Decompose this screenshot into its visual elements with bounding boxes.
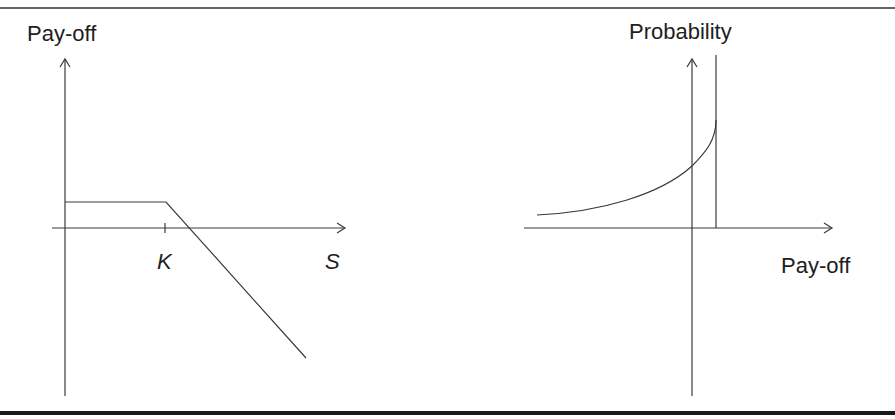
right-x-axis-label: Pay-off	[781, 255, 850, 277]
left-y-axis-label: Pay-off	[27, 23, 96, 45]
strike-label: K	[157, 251, 172, 273]
right-y-axis-label: Probability	[629, 21, 732, 43]
probability-curve	[537, 120, 716, 215]
right-panel-axes	[524, 55, 832, 396]
left-x-axis-label: S	[325, 251, 340, 273]
figure: Pay-off K S Probability Pay-off	[0, 0, 895, 419]
left-panel-axes	[52, 59, 345, 396]
payoff-line	[65, 202, 306, 358]
diagram-canvas	[0, 0, 895, 419]
